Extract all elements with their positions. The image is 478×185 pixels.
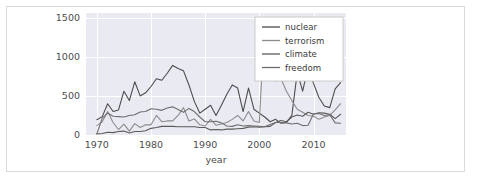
y-tick-label: 1000 [56,51,80,62]
figure-frame: 050010001500 19701980199020002010 year n… [6,6,465,172]
line-chart[interactable]: 050010001500 19701980199020002010 year n… [7,7,464,171]
y-tick-label: 500 [62,90,80,101]
legend-label-freedom[interactable]: freedom [285,63,321,73]
x-axis-title: year [205,154,226,165]
x-axis-ticks: 19701980199020002010 [85,139,326,150]
x-tick-label: 2000 [247,139,271,150]
x-tick-label: 1980 [139,139,163,150]
y-tick-label: 1500 [56,12,80,23]
x-tick-label: 2010 [301,139,325,150]
legend-label-climate[interactable]: climate [285,49,317,59]
x-tick-label: 1970 [85,139,109,150]
x-axis-label: year [205,154,226,165]
legend-label-nuclear[interactable]: nuclear [285,22,318,32]
y-axis-ticks: 050010001500 [56,12,80,140]
chart-legend[interactable]: nuclearterrorismclimatefreedom [255,17,343,81]
legend-label-terrorism[interactable]: terrorism [285,36,324,46]
y-tick-label: 0 [74,129,80,140]
x-tick-label: 1990 [193,139,217,150]
